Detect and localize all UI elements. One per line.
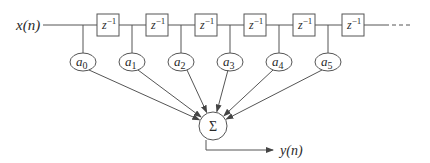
delay-box: z−1 xyxy=(342,14,364,36)
output-label: y(n) xyxy=(278,143,303,159)
coefficient-a0: a0 xyxy=(70,25,199,120)
fir-filter-diagram: x(n) z−1z−1z−1z−1z−1z−1 a0a1a2a3a4a5 Σ y… xyxy=(0,0,430,163)
coefficient-a3: a3 xyxy=(217,25,243,112)
coefficient-a2: a2 xyxy=(168,25,207,112)
coefficient-a5: a5 xyxy=(226,25,341,119)
coefficient-a1: a1 xyxy=(119,25,201,117)
coefficient-taps: a0a1a2a3a4a5 xyxy=(70,25,341,120)
delay-box: z−1 xyxy=(97,14,119,36)
summation-node: Σ xyxy=(199,112,227,140)
input-label: x(n) xyxy=(15,17,40,34)
sigma-symbol: Σ xyxy=(209,119,217,134)
delay-box: z−1 xyxy=(195,14,217,36)
delay-box: z−1 xyxy=(293,14,315,36)
output-line xyxy=(206,140,273,150)
delay-box: z−1 xyxy=(146,14,168,36)
delay-box: z−1 xyxy=(244,14,266,36)
